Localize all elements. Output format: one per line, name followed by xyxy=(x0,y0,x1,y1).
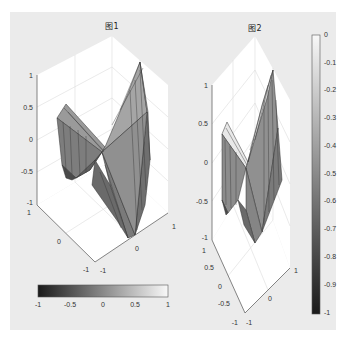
svg-text:0: 0 xyxy=(324,31,328,38)
figure-canvas: 图1 xyxy=(0,0,351,346)
svg-text:0: 0 xyxy=(218,283,222,290)
svg-text:1: 1 xyxy=(29,72,33,79)
svg-text:1: 1 xyxy=(27,209,31,216)
svg-text:-1: -1 xyxy=(246,319,252,326)
plot-1-colorbar xyxy=(38,285,168,297)
svg-text:-0.9: -0.9 xyxy=(324,281,336,288)
svg-text:0: 0 xyxy=(57,238,61,245)
svg-text:-0.4: -0.4 xyxy=(324,142,336,149)
svg-text:-1: -1 xyxy=(83,266,89,273)
svg-text:1: 1 xyxy=(166,301,170,308)
plot-2-title: 图2 xyxy=(248,24,261,33)
plot-1: 图1 xyxy=(21,22,176,308)
svg-text:0.5: 0.5 xyxy=(23,104,33,111)
svg-text:-0.5: -0.5 xyxy=(21,168,33,175)
plot-2-colorbar-ticks: 0 -0.1 -0.2 -0.3 -0.4 -0.5 -0.6 -0.7 -0.… xyxy=(324,31,336,316)
svg-text:-0.2: -0.2 xyxy=(324,86,336,93)
plot-1-z-ticks: 1 0.5 0 -0.5 -1 xyxy=(21,72,33,206)
svg-text:0: 0 xyxy=(135,245,139,252)
svg-text:0.5: 0.5 xyxy=(198,120,208,127)
svg-text:-1: -1 xyxy=(27,199,33,206)
svg-text:1: 1 xyxy=(172,223,176,230)
svg-text:-1: -1 xyxy=(232,319,238,326)
svg-text:0: 0 xyxy=(268,295,272,302)
svg-text:-0.5: -0.5 xyxy=(324,170,336,177)
svg-text:0: 0 xyxy=(29,136,33,143)
svg-text:-1: -1 xyxy=(100,267,106,274)
svg-text:1: 1 xyxy=(204,82,208,89)
plot-2-z-ticks: 1 0.5 0 -0.5 -1 xyxy=(196,82,208,241)
svg-text:0: 0 xyxy=(204,159,208,166)
plot-2-colorbar xyxy=(312,35,320,314)
svg-text:-0.8: -0.8 xyxy=(324,253,336,260)
svg-text:-1: -1 xyxy=(202,234,208,241)
svg-text:-1: -1 xyxy=(35,301,41,308)
svg-text:-0.1: -0.1 xyxy=(324,59,336,66)
svg-text:1: 1 xyxy=(294,267,298,274)
svg-text:1: 1 xyxy=(202,247,206,254)
svg-text:-1: -1 xyxy=(324,309,330,316)
plot-1-colorbar-ticks: -1 -0.5 0 0.5 1 xyxy=(35,301,170,308)
svg-text:-0.5: -0.5 xyxy=(218,300,230,307)
svg-text:-0.5: -0.5 xyxy=(64,301,76,308)
svg-text:-0.3: -0.3 xyxy=(324,114,336,121)
plot-1-title: 图1 xyxy=(105,22,118,31)
svg-text:-0.6: -0.6 xyxy=(324,197,336,204)
svg-text:0.5: 0.5 xyxy=(130,301,140,308)
svg-text:-0.5: -0.5 xyxy=(196,198,208,205)
svg-text:0.5: 0.5 xyxy=(204,264,214,271)
svg-text:-0.7: -0.7 xyxy=(324,225,336,232)
svg-text:0: 0 xyxy=(101,301,105,308)
plot-2: 图2 xyxy=(196,24,336,326)
